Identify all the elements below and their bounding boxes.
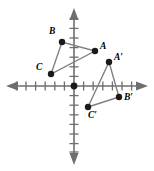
coordinate-plane-svg [0,0,154,171]
vertex-point-c [48,71,54,77]
vertex-label-b: B [49,27,55,37]
triangle-abc [51,42,95,74]
vertex-point-a-prime [106,59,112,65]
vertex-point-a [92,48,98,54]
vertex-point-b [59,39,65,45]
origin-point [71,83,78,90]
vertex-point-b-prime [116,94,122,100]
vertex-label-a: A [100,42,106,52]
y-axis-down-arrowhead [70,153,79,165]
x-axis-right-arrowhead [136,82,148,91]
vertex-label-c: C [36,63,42,73]
vertex-label-c-prime: C′ [88,111,97,121]
vertex-label-b-prime: B′ [124,93,133,103]
vertex-label-a-prime: A′ [114,53,123,63]
coordinate-plane-figure: A B C A′ B′ C′ [0,0,154,171]
